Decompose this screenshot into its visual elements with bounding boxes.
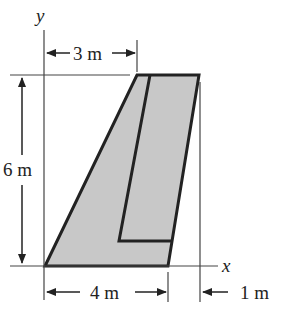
area-diagram: y x 3 m 6 m 4 m 1 m (0, 0, 283, 317)
dim-right-offset: 1 m (240, 282, 269, 303)
dim-bottom-width: 4 m (90, 282, 119, 303)
shaded-region (45, 75, 199, 266)
x-axis-label: x (221, 255, 231, 276)
y-axis-label: y (34, 5, 45, 26)
diagram-svg: y x 3 m 6 m 4 m 1 m (0, 0, 283, 317)
dim-height: 6 m (3, 159, 32, 180)
dim-top-offset: 3 m (73, 43, 102, 64)
